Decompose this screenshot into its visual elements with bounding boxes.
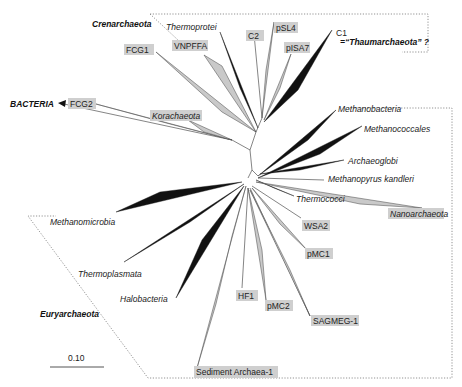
hf1-branch: [242, 188, 248, 288]
label-thermococci: Thermococci: [296, 194, 346, 204]
label-thermoplasmata: Thermoplasmata: [78, 269, 142, 279]
label-wsa2: WSA2: [304, 221, 328, 231]
label-psl4: pSL4: [276, 23, 296, 33]
euryarchaeota-outline: [28, 108, 452, 378]
label-korachaeota: Korachaeota: [152, 111, 200, 121]
archaeoglobi-wedge: [260, 160, 344, 174]
label-sagmeg1: SAGMEG-1: [313, 316, 358, 326]
wsa2-branch: [252, 186, 301, 218]
label-fcg2: FCG2: [70, 99, 93, 109]
fcg2-wedge: [96, 104, 232, 140]
vnpffa-wedge: [204, 55, 256, 132]
label-methanomicrobia: Methanomicrobia: [50, 217, 115, 227]
label-nanoarchaeota: Nanoarchaeota: [390, 209, 448, 219]
label-thermoprotei: Thermoprotei: [166, 22, 218, 32]
label-pisa7: pISA7: [286, 43, 309, 53]
methanopyrus-branch: [258, 178, 324, 180]
label-pmc2: pMC2: [267, 301, 290, 311]
label-sediment: Sediment Archaea-1: [196, 367, 273, 377]
label-methanococcales: Methanococcales: [364, 124, 431, 134]
label-halobacteria: Halobacteria: [120, 294, 168, 304]
group-crenarchaeota: Crenarchaeota: [92, 19, 152, 29]
label-methanopyrus: Methanopyrus kandleri: [328, 174, 415, 184]
scale-bar-label: 0.10: [68, 353, 85, 363]
label-methanobacteria: Methanobacteria: [338, 104, 402, 114]
label-archaeoglobi: Archaeoglobi: [347, 156, 399, 166]
label-thaumarchaeota: =“Thaumarchaeota” ?: [340, 37, 430, 47]
label-bacteria: BACTERIA: [10, 99, 54, 109]
label-pmc1: pMC1: [307, 249, 330, 259]
sediment-wedge: [197, 186, 246, 368]
phylogenetic-tree: Crenarchaeota Thermoprotei VNPFFA C2 pSL…: [0, 0, 462, 387]
group-euryarchaeota: Euryarchaeota: [40, 309, 99, 319]
label-hf1: HF1: [238, 291, 254, 301]
bacteria-branch: [64, 104, 232, 140]
label-fcg1: FCG1: [126, 45, 149, 55]
label-c2: C2: [248, 31, 259, 41]
c2-branch: [254, 34, 262, 118]
bacteria-arrow-icon: [58, 100, 66, 107]
methanomicrobia-wedge: [116, 182, 242, 212]
methanobacteria-wedge: [258, 110, 336, 176]
halobacteria-wedge: [176, 186, 244, 298]
label-vnpffa: VNPFFA: [174, 41, 207, 51]
